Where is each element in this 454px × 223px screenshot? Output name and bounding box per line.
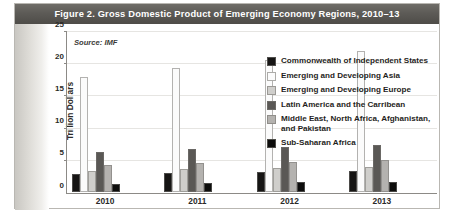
- bar: [172, 68, 180, 192]
- legend-item-label: Latin America and the Carribean: [281, 100, 405, 110]
- x-axis-tick-label: 2011: [160, 196, 252, 206]
- bar: [381, 160, 389, 192]
- legend-item-label: Emerging and Developing Europe: [281, 85, 411, 95]
- bar: [180, 169, 188, 192]
- legend-item[interactable]: Emerging and Developing Europe: [267, 85, 439, 95]
- legend-swatch-icon: [267, 86, 276, 95]
- legend-item-label: Commonwealth of Independent States: [281, 56, 428, 66]
- bar: [204, 183, 212, 192]
- bar: [273, 168, 281, 192]
- y-axis-tick-label: 0: [60, 180, 64, 189]
- legend-swatch-icon: [267, 115, 276, 124]
- bar: [349, 171, 357, 192]
- legend-item[interactable]: Middle East, North Africa, Afghanistan, …: [267, 114, 439, 133]
- legend-swatch-icon: [267, 139, 276, 148]
- y-axis-tick-label: 5: [60, 148, 64, 157]
- y-axis-tick-mark: [64, 128, 67, 129]
- y-axis-tick-mark: [64, 160, 67, 161]
- bar: [80, 77, 88, 192]
- x-axis-tick-label: 2010: [68, 196, 160, 206]
- y-axis-tick-label: 20: [55, 51, 64, 60]
- legend-item-label: Emerging and Developing Asia: [281, 71, 400, 81]
- legend-item[interactable]: Commonwealth of Independent States: [267, 56, 439, 66]
- legend-item-label: Sub-Saharan Africa: [281, 138, 356, 148]
- bar: [365, 167, 373, 192]
- bar-group: 2010: [68, 32, 160, 192]
- bar: [112, 184, 120, 192]
- y-axis-tick-label: 25: [55, 19, 64, 28]
- bar: [297, 182, 305, 192]
- figure-container: Figure 2. Gross Domestic Product of Emer…: [14, 3, 440, 209]
- bar: [196, 163, 204, 192]
- y-axis-tick-mark: [64, 95, 67, 96]
- x-axis-tick-label: 2013: [345, 196, 437, 206]
- chart-legend: Commonwealth of Independent StatesEmergi…: [267, 56, 439, 152]
- bar: [88, 171, 96, 192]
- legend-swatch-icon: [267, 72, 276, 81]
- legend-swatch-icon: [267, 57, 276, 66]
- bar: [188, 149, 196, 192]
- y-axis-tick-mark: [64, 31, 67, 32]
- legend-item[interactable]: Latin America and the Carribean: [267, 100, 439, 110]
- bar: [389, 182, 397, 192]
- bar-group: 2011: [160, 32, 252, 192]
- figure-title: Figure 2. Gross Domestic Product of Emer…: [15, 4, 439, 24]
- bar: [104, 165, 112, 192]
- bar: [72, 174, 80, 192]
- bar: [257, 172, 265, 192]
- x-axis-tick-label: 2012: [253, 196, 345, 206]
- left-margin-strip: [15, 24, 49, 210]
- legend-swatch-icon: [267, 101, 276, 110]
- y-axis-tick-label: 15: [55, 83, 64, 92]
- legend-item[interactable]: Emerging and Developing Asia: [267, 71, 439, 81]
- bar: [96, 152, 104, 192]
- y-axis-tick-label: 10: [55, 116, 64, 125]
- legend-item-label: Middle East, North Africa, Afghanistan, …: [281, 114, 439, 133]
- bar: [164, 173, 172, 192]
- bar: [289, 162, 297, 192]
- y-axis-tick-mark: [64, 63, 67, 64]
- bar: [281, 147, 289, 192]
- legend-item[interactable]: Sub-Saharan Africa: [267, 138, 439, 148]
